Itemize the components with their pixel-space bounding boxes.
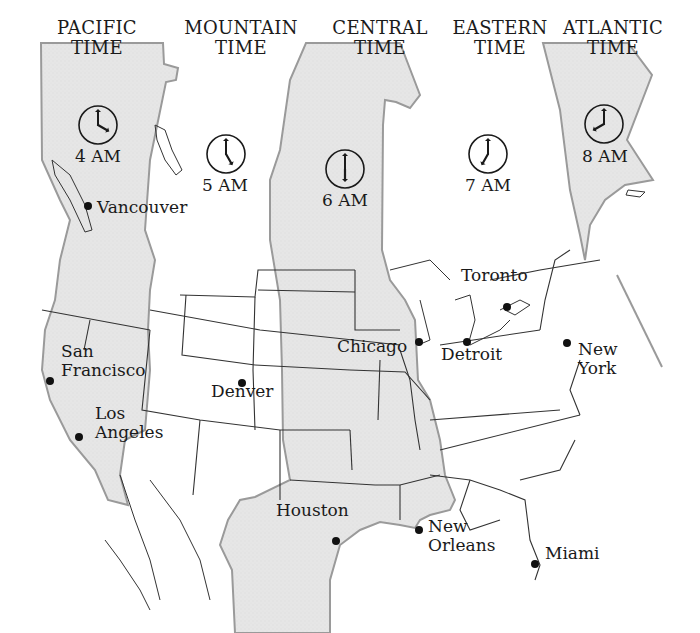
city-name-line: New (428, 517, 495, 536)
city-label-toronto: Toronto (461, 266, 528, 285)
city-name-line: Francisco (61, 361, 145, 380)
zone-time-pacific: 4 AM (75, 147, 121, 166)
zone-time-eastern: 7 AM (465, 176, 511, 195)
city-name-line: Los (95, 404, 163, 423)
zone-time-word: TIME (57, 38, 137, 58)
island (155, 125, 182, 175)
city-label-los-angeles: LosAngeles (95, 404, 163, 442)
zone-label-central: CENTRALTIME (332, 18, 427, 58)
city-label-chicago: Chicago (337, 337, 407, 356)
city-name-line: Angeles (95, 423, 163, 442)
zone-time-mountain: 5 AM (202, 176, 248, 195)
city-label-denver: Denver (211, 382, 273, 401)
zone-time-atlantic: 8 AM (582, 147, 628, 166)
time-zone-map (0, 0, 700, 633)
zone-name: MOUNTAIN (184, 18, 297, 38)
zone-name: ATLANTIC (563, 18, 663, 38)
city-dot-chicago (415, 338, 423, 346)
zone-time-word: TIME (452, 38, 547, 58)
zone-time-word: TIME (332, 38, 427, 58)
city-name-line: Orleans (428, 536, 495, 555)
clock-icon (466, 132, 510, 176)
city-name-line: Miami (545, 544, 600, 563)
city-label-houston: Houston (276, 501, 349, 520)
zone-time-word: TIME (563, 38, 663, 58)
clock-icon (582, 102, 626, 146)
city-name-line: Toronto (461, 266, 528, 285)
city-name-line: Chicago (337, 337, 407, 356)
clock-icon (323, 147, 367, 191)
city-dot-los-angeles (75, 433, 83, 441)
clock-icon (76, 103, 120, 147)
city-dot-miami (531, 560, 539, 568)
city-name-line: Denver (211, 382, 273, 401)
zone-label-atlantic: ATLANTICTIME (563, 18, 663, 58)
city-name-line: Detroit (441, 345, 502, 364)
zone-name: EASTERN (452, 18, 547, 38)
city-label-detroit: Detroit (441, 345, 502, 364)
city-dot-toronto (503, 303, 511, 311)
clock-icon (204, 132, 248, 176)
city-dot-houston (332, 537, 340, 545)
zone-name: CENTRAL (332, 18, 427, 38)
zone-label-eastern: EASTERNTIME (452, 18, 547, 58)
city-dot-new-york (563, 339, 571, 347)
city-dot-vancouver (84, 202, 92, 210)
city-label-miami: Miami (545, 544, 600, 563)
city-name-line: New (578, 340, 618, 359)
zone-time-central: 6 AM (322, 191, 368, 210)
city-label-vancouver: Vancouver (97, 198, 187, 217)
city-dot-new-orleans (415, 526, 423, 534)
city-label-new-orleans: NewOrleans (428, 517, 495, 555)
city-name-line: Vancouver (97, 198, 187, 217)
city-name-line: York (578, 359, 618, 378)
zone-time-word: TIME (184, 38, 297, 58)
newfoundland-island (626, 190, 645, 197)
zone-label-mountain: MOUNTAINTIME (184, 18, 297, 58)
city-label-new-york: NewYork (578, 340, 618, 378)
city-name-line: Houston (276, 501, 349, 520)
city-label-san-francisco: SanFrancisco (61, 342, 145, 380)
zone-label-pacific: PACIFICTIME (57, 18, 137, 58)
city-name-line: San (61, 342, 145, 361)
city-dot-san-francisco (46, 377, 54, 385)
zone-name: PACIFIC (57, 18, 137, 38)
